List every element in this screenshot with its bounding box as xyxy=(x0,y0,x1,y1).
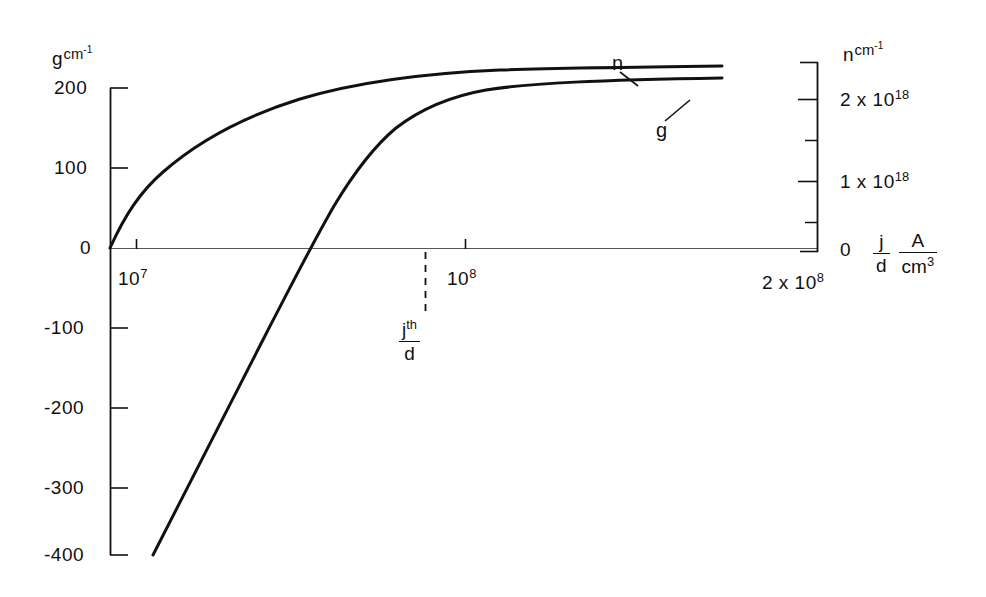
x-tick-label-2e8: 2 x 108 xyxy=(762,272,824,292)
curve-label-g: g xyxy=(656,120,667,140)
x-tick-label-1e7: 107 xyxy=(118,268,147,288)
x-axis-unit-denominator-base: cm xyxy=(902,256,927,277)
right-tick-label-1e18-mantissa: 1 x 10 xyxy=(840,171,895,192)
threshold-fraction: jth d xyxy=(399,318,420,364)
right-tick-label-2e18: 2 x 1018 xyxy=(840,89,909,109)
threshold-numerator: jth xyxy=(399,318,420,342)
left-tick-label-minus400: -400 xyxy=(44,545,84,564)
left-axis-title: gcm-1 xyxy=(52,44,92,68)
right-axis-title-exponent: -1 xyxy=(874,40,883,51)
left-axis-title-symbol: g xyxy=(52,48,63,69)
left-axis-title-unit: cm xyxy=(64,46,84,62)
figure-canvas: gcm-1 200 100 0 -100 -200 -300 -400 107 … xyxy=(0,0,986,597)
right-axis-title-unit: cm xyxy=(855,42,875,58)
x-tick-label-1e7-mantissa: 10 xyxy=(118,268,140,289)
x-axis-title: j d A cm3 xyxy=(873,231,937,277)
right-tick-label-1e18: 1 x 1018 xyxy=(840,171,909,191)
left-tick-label-200: 200 xyxy=(54,78,87,97)
x-axis-title-numerator: j xyxy=(873,232,890,254)
left-tick-label-0: 0 xyxy=(80,238,91,257)
curve-label-n: n xyxy=(612,53,623,73)
x-axis-unit-fraction: A cm3 xyxy=(899,231,938,277)
x-tick-label-1e8-exponent: 8 xyxy=(469,266,476,281)
plot-svg xyxy=(0,0,986,597)
x-tick-label-1e8-mantissa: 10 xyxy=(447,268,469,289)
left-tick-label-minus100: -100 xyxy=(44,318,84,337)
left-axis-title-exponent: -1 xyxy=(83,44,92,55)
threshold-denominator: d xyxy=(399,342,420,364)
x-axis-unit-denominator-exponent: 3 xyxy=(927,254,934,269)
x-axis-unit-numerator: A xyxy=(899,231,938,253)
right-tick-label-1e18-exponent: 18 xyxy=(895,169,909,184)
x-tick-label-1e8: 108 xyxy=(447,268,476,288)
left-tick-label-100: 100 xyxy=(54,158,87,177)
right-tick-label-2e18-mantissa: 2 x 10 xyxy=(840,89,895,110)
x-tick-label-1e7-exponent: 7 xyxy=(140,266,147,281)
left-tick-label-minus200: -200 xyxy=(44,398,84,417)
right-tick-label-0: 0 xyxy=(840,240,851,259)
x-tick-label-2e8-exponent: 8 xyxy=(817,270,824,285)
right-axis-title-symbol: n xyxy=(843,44,854,65)
x-tick-label-2e8-mantissa: 2 x 10 xyxy=(762,272,817,293)
threshold-annotation: jth d xyxy=(399,318,420,364)
x-axis-title-fraction-jd: j d xyxy=(873,232,890,276)
right-axis-title: ncm-1 xyxy=(843,40,883,64)
threshold-superscript: th xyxy=(406,317,417,332)
left-tick-label-minus300: -300 xyxy=(44,478,84,497)
x-axis-unit-denominator: cm3 xyxy=(899,253,938,277)
leader-line-g xyxy=(665,100,690,121)
x-axis-title-denominator: d xyxy=(873,254,890,276)
curve-g xyxy=(153,78,722,555)
right-tick-label-2e18-exponent: 18 xyxy=(895,87,909,102)
curve-n xyxy=(110,66,722,248)
